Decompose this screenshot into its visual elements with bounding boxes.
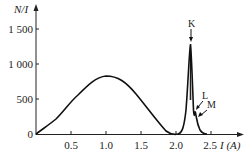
y-tick-label: 0 bbox=[28, 128, 34, 140]
beta-continuum-curve bbox=[36, 76, 178, 134]
x-ticks bbox=[71, 131, 211, 134]
x-tick-label: 2.5 bbox=[203, 139, 217, 151]
y-tick-label: 1 500 bbox=[8, 23, 33, 35]
y-tick-label: 1 000 bbox=[8, 58, 33, 70]
x-tick-label: 1.5 bbox=[134, 139, 148, 151]
x-tick-label: 2.0 bbox=[169, 139, 183, 151]
peak-label-m: M bbox=[207, 99, 216, 110]
y-tick-label: 500 bbox=[17, 93, 34, 105]
k-arrow-icon bbox=[189, 37, 193, 42]
x-tick-label: 1.0 bbox=[99, 139, 113, 151]
conversion-peak-curve bbox=[178, 44, 207, 134]
m-arrow-icon bbox=[198, 112, 203, 117]
x-axis-arrow-icon bbox=[237, 132, 244, 137]
peak-label-k: K bbox=[188, 18, 196, 29]
chart: N/I 1 500 1 000 500 0 0.5 1.0 1.5 2.0 2.… bbox=[0, 0, 249, 159]
y-axis-title: N/I bbox=[13, 3, 29, 15]
y-axis-arrow-icon bbox=[34, 4, 39, 11]
l-arrow bbox=[198, 101, 203, 107]
x-axis-title: I (A) bbox=[219, 139, 241, 152]
x-tick-label: 0.5 bbox=[64, 139, 78, 151]
